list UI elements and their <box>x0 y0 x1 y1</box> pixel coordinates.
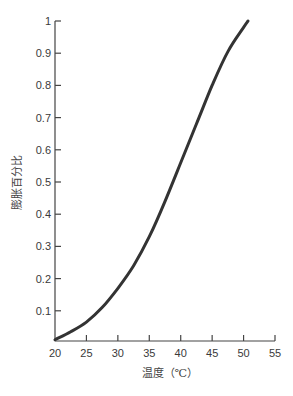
x-tick-label: 20 <box>49 347 61 359</box>
y-axis-ticks: 0.10.20.30.40.50.60.70.80.91 <box>36 15 61 317</box>
x-tick-label: 55 <box>269 347 281 359</box>
x-axis-ticks: 2025303540455055 <box>49 335 281 359</box>
x-tick-label: 25 <box>80 347 92 359</box>
y-tick-label: 0.3 <box>36 240 51 252</box>
y-tick-label: 0.4 <box>36 208 51 220</box>
y-tick-label: 0.6 <box>36 144 51 156</box>
y-tick-label: 0.9 <box>36 47 51 59</box>
line-chart: 0.10.20.30.40.50.60.70.80.91 20253035404… <box>0 0 293 396</box>
y-tick-label: 0.7 <box>36 112 51 124</box>
x-axis-title: 温度（℃） <box>142 366 198 380</box>
y-tick-label: 0.5 <box>36 176 51 188</box>
x-tick-label: 40 <box>175 347 187 359</box>
x-tick-label: 45 <box>206 347 218 359</box>
x-tick-label: 35 <box>143 347 155 359</box>
y-tick-label: 0.1 <box>36 305 51 317</box>
y-tick-label: 0.2 <box>36 273 51 285</box>
x-tick-label: 30 <box>112 347 124 359</box>
y-axis-title: 膨胀百分比 <box>10 155 24 210</box>
expansion-curve <box>55 21 248 340</box>
y-tick-label: 1 <box>45 15 51 27</box>
axes <box>55 21 275 341</box>
x-tick-label: 50 <box>237 347 249 359</box>
y-tick-label: 0.8 <box>36 79 51 91</box>
